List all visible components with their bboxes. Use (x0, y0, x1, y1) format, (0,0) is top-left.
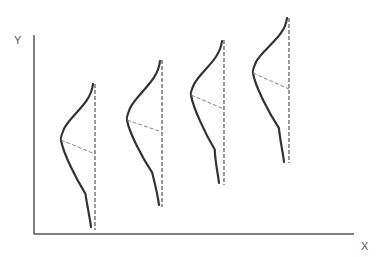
distribution-1 (61, 84, 95, 230)
distribution-2 (127, 60, 162, 207)
peak-marker-dashed-line (191, 95, 224, 109)
peak-marker-dashed-line (127, 120, 162, 132)
distribution-3 (191, 40, 224, 185)
y-axis-label: Y (14, 34, 22, 46)
distributions (61, 18, 289, 230)
distribution-4 (253, 18, 289, 163)
peak-marker-dashed-line (253, 73, 289, 89)
diagram-canvas: Y X (0, 0, 381, 257)
peak-marker-dashed-line (61, 140, 95, 154)
x-axis-label: X (361, 240, 369, 252)
distribution-curve (127, 61, 160, 205)
distribution-curve (61, 84, 93, 227)
distribution-curve (253, 18, 287, 162)
distribution-curve (191, 41, 222, 183)
